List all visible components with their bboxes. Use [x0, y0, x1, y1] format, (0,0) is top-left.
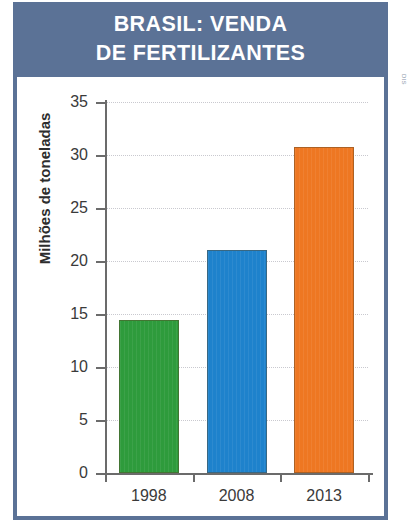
chart-title-bar: BRASIL: VENDA DE FERTILIZANTES — [13, 2, 388, 75]
x-axis-tick — [193, 473, 195, 482]
gridline — [105, 102, 368, 103]
y-axis-tick-label: 30 — [28, 146, 88, 164]
bar-texture — [208, 251, 266, 472]
y-axis-tick — [96, 261, 105, 263]
credit-text: DIS — [401, 74, 407, 85]
bar-1998 — [119, 320, 179, 473]
y-axis-tick-label: 20 — [28, 252, 88, 270]
bar-2013 — [294, 147, 354, 473]
y-axis-tick — [96, 420, 105, 422]
x-axis-line — [100, 473, 373, 475]
bar-texture — [120, 321, 178, 472]
x-axis-tick — [105, 473, 107, 482]
x-axis-tick-label: 1998 — [104, 487, 194, 505]
y-axis-tick — [96, 102, 105, 104]
y-axis-line — [105, 100, 107, 475]
y-axis-tick — [96, 314, 105, 316]
chart-title-line-2: DE FERTILIZANTES — [96, 39, 305, 67]
x-axis-tick — [368, 473, 370, 482]
y-axis-tick — [96, 208, 105, 210]
chart-title-line-1: BRASIL: VENDA — [114, 10, 288, 38]
y-axis-tick-label: 5 — [28, 411, 88, 429]
chart-figure: BRASIL: VENDA DE FERTILIZANTES DIS Milhõ… — [0, 0, 408, 532]
y-axis-tick-label: 35 — [28, 93, 88, 111]
y-axis-tick-label: 15 — [28, 305, 88, 323]
y-axis-tick — [96, 155, 105, 157]
x-axis-tick-label: 2008 — [192, 487, 282, 505]
y-axis-tick-label: 10 — [28, 358, 88, 376]
bar-texture — [295, 148, 353, 472]
y-axis-tick — [96, 367, 105, 369]
x-axis-tick — [280, 473, 282, 482]
y-axis-tick — [96, 473, 105, 475]
bar-2008 — [207, 250, 267, 473]
y-axis-tick-label: 0 — [28, 464, 88, 482]
x-axis-tick-label: 2013 — [279, 487, 369, 505]
y-axis-tick-label: 25 — [28, 199, 88, 217]
